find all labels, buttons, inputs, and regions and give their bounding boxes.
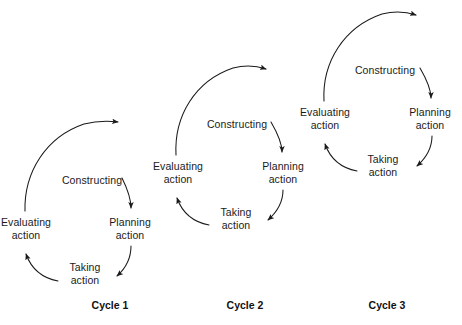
cycle3-node-taking-action-line1: Taking — [368, 153, 399, 166]
cycle1-node-planning-action-line2: action — [109, 228, 151, 241]
cycle3-node-constructing-line1: Constructing — [355, 64, 415, 77]
cycle1-caption: Cycle 1 — [92, 299, 129, 311]
cycle1-arc-constructing-to-planning — [122, 178, 131, 208]
cycle2-arc-constructing-to-planning — [271, 122, 282, 152]
cycle2-arc-taking-to-evaluating — [177, 198, 209, 225]
cycle1-node-evaluating-action-line2: action — [1, 228, 51, 241]
cycle2-node-taking-action-line2: action — [221, 218, 252, 231]
cycle2-node-planning-action-line2: action — [262, 172, 304, 185]
cycle1-node-evaluating-action: Evaluating action — [1, 216, 51, 241]
cycle1-node-constructing-line1: Constructing — [62, 174, 122, 187]
cycle2-node-evaluating-action-line2: action — [153, 172, 203, 185]
cycle2-node-constructing-line1: Constructing — [207, 118, 267, 131]
cycle3-node-constructing: Constructing — [355, 64, 415, 77]
cycle2-caption: Cycle 2 — [227, 299, 264, 311]
cycle1-node-planning-action: Planning action — [109, 216, 151, 241]
cycle1-node-constructing: Constructing — [62, 174, 122, 187]
cycle2-node-planning-action-line1: Planning — [262, 160, 304, 173]
diagram-canvas: Constructing Planning action Taking acti… — [0, 0, 462, 325]
cycle2-arc-evaluating-to-next — [176, 66, 266, 155]
cycle1-node-taking-action: Taking action — [70, 261, 101, 286]
cycle3-node-planning-action-line2: action — [409, 118, 451, 131]
cycle2-node-planning-action: Planning action — [262, 160, 304, 185]
cycle3-arc-planning-to-taking — [417, 136, 432, 166]
cycle2-node-constructing: Constructing — [207, 118, 267, 131]
cycle3-node-taking-action: Taking action — [368, 153, 399, 178]
cycle2-node-evaluating-action-line1: Evaluating — [153, 160, 203, 173]
cycle2-arc-planning-to-taking — [268, 190, 283, 220]
cycle1-node-taking-action-line1: Taking — [70, 261, 101, 274]
cycle1-arc-taking-to-evaluating — [26, 254, 58, 281]
cycle3-arc-taking-to-evaluating — [325, 144, 357, 171]
cycle3-node-planning-action-line1: Planning — [409, 106, 451, 119]
cycle3-arc-constructing-to-planning — [420, 68, 431, 98]
cycle2-node-taking-action: Taking action — [221, 206, 252, 231]
cycle3-node-evaluating-action-line1: Evaluating — [300, 106, 350, 119]
cycle2-node-evaluating-action: Evaluating action — [153, 160, 203, 185]
cycle3-arc-evaluating-to-next — [324, 12, 416, 101]
cycle2-node-taking-action-line1: Taking — [221, 206, 252, 219]
cycle1-arc-evaluating-to-next — [25, 121, 118, 211]
cycle1-node-planning-action-line1: Planning — [109, 216, 151, 229]
cycle3-node-evaluating-action-line2: action — [300, 118, 350, 131]
cycle3-caption: Cycle 3 — [369, 299, 406, 311]
cycle1-node-evaluating-action-line1: Evaluating — [1, 216, 51, 229]
cycle3-node-evaluating-action: Evaluating action — [300, 106, 350, 131]
cycle3-node-taking-action-line2: action — [368, 165, 399, 178]
cycle1-arc-planning-to-taking — [117, 246, 131, 276]
cycle1-node-taking-action-line2: action — [70, 273, 101, 286]
cycle3-node-planning-action: Planning action — [409, 106, 451, 131]
